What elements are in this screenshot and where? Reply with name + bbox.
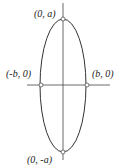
label-left: (-b, 0) — [6, 68, 32, 80]
covertex-left — [39, 83, 43, 87]
vertex-top — [61, 17, 65, 21]
label-right: (b, 0) — [92, 68, 114, 80]
label-bottom: (0, -a) — [27, 154, 53, 165]
ellipse-diagram: (0, a) (0, -a) (-b, 0) (b, 0) — [0, 0, 128, 165]
covertex-right — [85, 83, 89, 87]
label-top: (0, a) — [34, 8, 56, 20]
vertex-bottom — [61, 150, 65, 154]
